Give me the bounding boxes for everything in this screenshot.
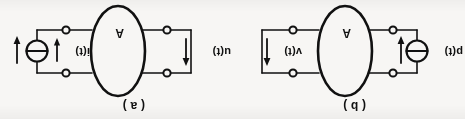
terminal-bottom-left [389, 26, 396, 33]
terminal-bottom-left [163, 26, 170, 33]
panel-b-caption: ( b ) [343, 99, 366, 113]
circuit-panel-b: ( b ) A p(t) v(t) [233, 0, 465, 119]
current-source-symbol-right [27, 41, 48, 62]
panel-a-caption: ( a ) [123, 99, 145, 113]
panel-b-left-port-label: p(t) [444, 46, 463, 58]
figure-canvas: ( b ) A p(t) v(t) [0, 0, 465, 119]
panel-a-right-port-label: i(t) [75, 46, 90, 58]
terminal-top-left [389, 69, 396, 76]
circuit-panel-a: ( a ) A u(t) i(t) [0, 0, 233, 119]
reference-arrow-down-right [14, 36, 21, 63]
panel-a-drawing [0, 0, 233, 119]
terminal-bottom-right [62, 26, 69, 33]
reference-arrow-up-left [183, 39, 190, 66]
reference-arrow-down-left [398, 36, 405, 63]
reference-arrow-up-right [264, 39, 271, 66]
two-port-block-b [318, 6, 372, 96]
panel-a-block-letter: A [115, 26, 124, 40]
panel-a-left-port-label: u(t) [212, 46, 231, 58]
terminal-top-left [163, 69, 170, 76]
panel-b-block-letter: A [342, 26, 351, 40]
source-label-tick [54, 38, 60, 61]
current-source-symbol-left [407, 41, 428, 62]
terminal-top-right [62, 69, 69, 76]
two-port-block-a [91, 6, 145, 96]
panel-b-right-port-label: v(t) [284, 46, 302, 58]
terminal-bottom-right [289, 26, 296, 33]
terminal-top-right [289, 69, 296, 76]
